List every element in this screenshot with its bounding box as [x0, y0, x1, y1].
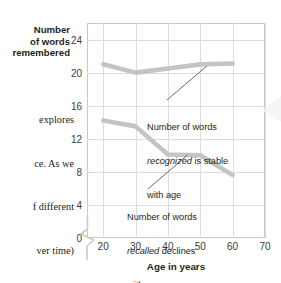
body-text-line: ver time) — [0, 244, 74, 259]
gridline-vertical — [265, 23, 266, 238]
y-tick-label: 4 — [58, 199, 82, 210]
annotation-recalled: Number of words recalled declines with a… — [127, 190, 197, 283]
annotation-line: Number of words — [127, 212, 197, 223]
axis-break-marks — [70, 215, 120, 260]
annotation-emphasis: recalled — [127, 246, 159, 256]
y-tick-label: 16 — [58, 100, 82, 111]
y-axis-ticks: 04812162024 — [58, 23, 82, 238]
annotation-line: recognized is stable — [147, 156, 228, 167]
x-tick-label: 60 — [220, 241, 246, 252]
series-line-recognized — [103, 64, 232, 73]
annotation-line: Number of words — [147, 122, 228, 133]
annotation-line-rest: declines — [159, 246, 195, 256]
y-tick-label: 12 — [58, 133, 82, 144]
y-tick-label: 20 — [58, 67, 82, 78]
x-tick-label: 70 — [252, 241, 278, 252]
annotation-line: with age — [127, 280, 197, 283]
y-tick-label: 24 — [58, 34, 82, 45]
annotation-emphasis: recognized — [147, 156, 192, 166]
annotation-line: recalled declines — [127, 246, 197, 257]
annotation-line-rest: is stable — [192, 156, 228, 166]
y-tick-label: 8 — [58, 166, 82, 177]
